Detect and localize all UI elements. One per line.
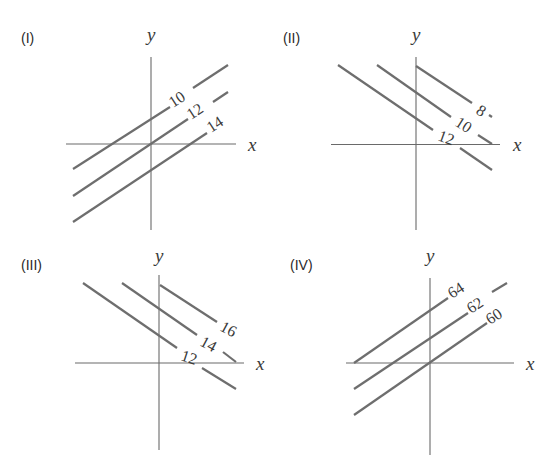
contour-line: 14: [73, 113, 226, 222]
panel-3: (III) y x 16 14 12: [21, 245, 265, 450]
contour-line: 8: [416, 66, 492, 120]
x-axis-label: x: [255, 353, 265, 374]
contour-label: 8: [473, 101, 489, 120]
panel-label: (IV): [290, 257, 313, 273]
panel-2: (II) y x 8 10 12: [283, 24, 522, 230]
x-axis-label: x: [525, 353, 535, 374]
x-axis-label: x: [512, 134, 522, 155]
contour-label: 12: [436, 127, 457, 148]
panel-label: (I): [21, 30, 34, 46]
panel-1: (I) y x 10 12 14: [21, 24, 257, 230]
contour-diagram-figure: (I) y x 10 12 14 (II) y x: [0, 0, 559, 466]
contour-line: 16: [160, 285, 240, 340]
y-axis-label: y: [424, 245, 435, 266]
contour-label: 16: [218, 318, 240, 341]
y-axis-label: y: [153, 245, 164, 266]
y-axis-label: y: [145, 24, 156, 45]
contour-label: 12: [179, 347, 199, 368]
contour-label: 14: [198, 333, 220, 356]
panel-label: (III): [21, 257, 42, 273]
contour-label: 14: [203, 113, 226, 136]
panel-label: (II): [283, 30, 300, 46]
x-axis-label: x: [247, 134, 257, 155]
y-axis-label: y: [410, 24, 421, 45]
panel-4: (IV) y x 64 62 60: [290, 245, 535, 455]
